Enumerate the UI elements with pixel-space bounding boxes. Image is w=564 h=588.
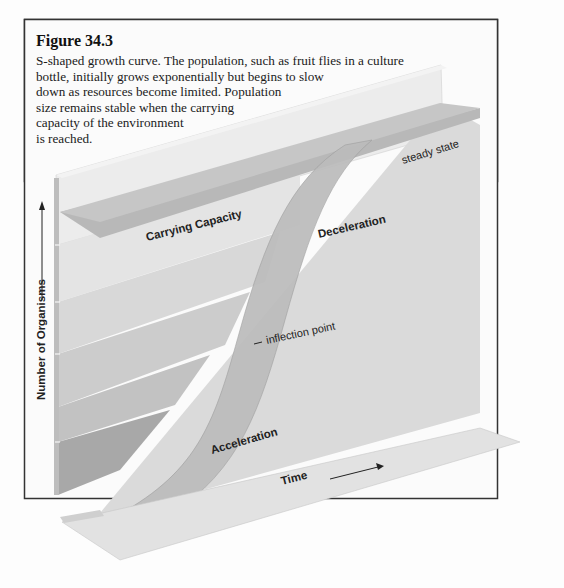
caption-line: capacity of the environment (36, 115, 396, 131)
caption-line: is reached. (36, 131, 396, 147)
caption-line: S-shaped growth curve. The population, s… (36, 53, 396, 69)
caption-line: size remains stable when the carrying (36, 100, 396, 116)
left-edge (54, 178, 59, 495)
y-axis-label: Number of Organisms (35, 279, 47, 400)
figure-title: Figure 34.3 (36, 32, 113, 50)
caption-line: down as resources become limited. Popula… (36, 84, 396, 100)
figure-caption: S-shaped growth curve. The population, s… (36, 53, 396, 146)
caption-line: bottle, initially grows exponentially bu… (36, 69, 396, 85)
